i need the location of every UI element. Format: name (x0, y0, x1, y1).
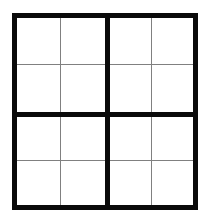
cell-r3c2[interactable] (61, 117, 105, 161)
grid-inner (17, 18, 193, 205)
block-top-left (17, 18, 105, 112)
puzzle-canvas (0, 0, 208, 219)
block-top-right (105, 18, 193, 112)
cell-r3c1[interactable] (17, 117, 61, 161)
cell-r4c2[interactable] (61, 161, 105, 205)
cell-r1c1[interactable] (17, 18, 61, 65)
block-bottom-left (17, 112, 105, 206)
cell-r1c3[interactable] (110, 18, 152, 65)
cell-r4c1[interactable] (17, 161, 61, 205)
cell-r1c4[interactable] (152, 18, 194, 65)
cell-r4c4[interactable] (152, 161, 194, 205)
cell-r3c4[interactable] (152, 117, 194, 161)
cell-r4c3[interactable] (110, 161, 152, 205)
cell-r3c3[interactable] (110, 117, 152, 161)
cell-r2c4[interactable] (152, 65, 194, 112)
sudoku-grid[interactable] (12, 13, 198, 210)
cell-r1c2[interactable] (61, 18, 105, 65)
cell-r2c2[interactable] (61, 65, 105, 112)
block-bottom-right (105, 112, 193, 206)
cell-r2c1[interactable] (17, 65, 61, 112)
cell-r2c3[interactable] (110, 65, 152, 112)
